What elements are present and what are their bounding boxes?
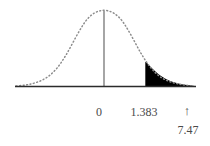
test-statistic-arrow-icon: ↑ <box>178 104 196 117</box>
critical-value-tick-label: 1.383 <box>124 106 164 118</box>
t-distribution-figure: 0 1.383 ↑ 7.47 <box>0 0 210 146</box>
density-curve <box>16 10 194 86</box>
test-statistic-label: 7.47 <box>172 124 204 136</box>
mean-tick-label: 0 <box>92 106 106 118</box>
